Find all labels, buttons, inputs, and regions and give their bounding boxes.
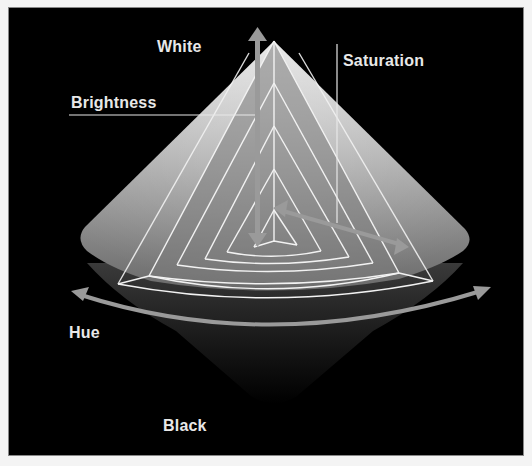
label-white: White bbox=[157, 38, 202, 56]
label-black: Black bbox=[163, 417, 207, 435]
label-saturation: Saturation bbox=[343, 52, 424, 70]
hsb-cone-diagram bbox=[9, 8, 524, 456]
label-brightness: Brightness bbox=[71, 94, 157, 112]
diagram-frame: White Brightness Saturation Hue Black bbox=[8, 7, 524, 456]
label-hue: Hue bbox=[69, 324, 100, 342]
